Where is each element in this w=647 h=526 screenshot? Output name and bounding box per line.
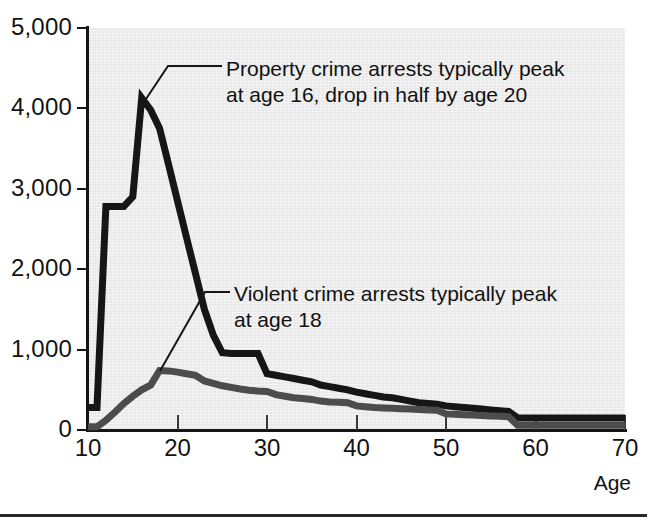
- annotation-violent-crime: Violent crime arrests typically peak at …: [234, 281, 557, 333]
- bottom-rule: [0, 514, 647, 517]
- callout-leader-violent: [160, 292, 230, 371]
- chart-figure: 5,0004,0003,0002,0001,0000 1020304050607…: [0, 0, 647, 526]
- annotation-property-crime: Property crime arrests typically peak at…: [226, 56, 564, 108]
- callout-leader-property: [146, 66, 222, 99]
- x-axis-title: Age: [594, 472, 631, 493]
